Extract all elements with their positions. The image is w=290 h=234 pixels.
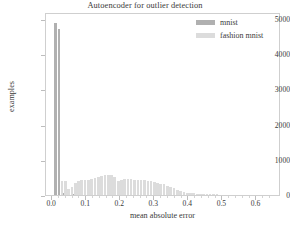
x-minor-tick-mark <box>262 196 263 198</box>
x-minor-tick-mark <box>160 196 161 198</box>
x-tick-mark <box>119 196 120 200</box>
histogram-bar <box>153 182 156 195</box>
x-tick-label: 0.4 <box>172 199 202 208</box>
histogram-bar <box>199 194 202 195</box>
x-minor-tick-mark <box>174 196 175 198</box>
x-minor-tick-mark <box>215 196 216 198</box>
x-minor-tick-mark <box>112 196 113 198</box>
chart-legend: mnistfashion mnist <box>196 17 278 43</box>
legend-item: fashion mnist <box>196 30 278 41</box>
histogram-bar <box>80 180 83 195</box>
histogram-bar <box>100 176 103 195</box>
histogram-bar <box>130 179 133 195</box>
y-tick-mark <box>41 90 45 91</box>
histogram-bar <box>94 178 97 195</box>
histogram-bar <box>202 194 205 195</box>
x-minor-tick-mark <box>167 196 168 198</box>
y-tick-mark <box>41 126 45 127</box>
y-tick-mark <box>41 55 45 56</box>
legend-item: mnist <box>196 17 278 28</box>
histogram-bar <box>179 191 182 195</box>
chart-title: Autoencoder for outlier detection <box>0 1 290 10</box>
y-tick-label: 3000 <box>250 86 290 94</box>
histogram-bar <box>133 180 136 195</box>
histogram-bar <box>113 177 116 195</box>
x-minor-tick-mark <box>146 196 147 198</box>
x-minor-tick-mark <box>72 196 73 198</box>
histogram-bar <box>189 193 192 195</box>
chart-figure: Autoencoder for outlier detection 010002… <box>0 0 290 234</box>
histogram-bar <box>163 184 166 195</box>
x-minor-tick-mark <box>201 196 202 198</box>
x-minor-tick-mark <box>92 196 93 198</box>
legend-label: mnist <box>220 18 238 28</box>
x-tick-mark <box>85 196 86 200</box>
y-tick-mark <box>41 196 45 197</box>
histogram-bar <box>192 193 195 195</box>
x-minor-tick-mark <box>133 196 134 198</box>
histogram-bar <box>74 183 77 195</box>
y-tick-label: 4000 <box>250 51 290 59</box>
y-tick-mark <box>41 20 45 21</box>
legend-swatch-icon <box>196 33 215 38</box>
histogram-bar <box>209 194 212 195</box>
histogram-bar <box>140 180 143 195</box>
x-tick-mark <box>255 196 256 200</box>
histogram-bar <box>104 175 107 195</box>
histogram-bar <box>61 181 64 195</box>
histogram-bar <box>169 187 172 195</box>
x-minor-tick-mark <box>65 196 66 198</box>
histogram-bar <box>120 180 123 195</box>
histogram-bar <box>58 29 61 195</box>
x-tick-label: 0.3 <box>138 199 168 208</box>
x-tick-label: 0.1 <box>70 199 100 208</box>
x-minor-tick-mark <box>242 196 243 198</box>
x-minor-tick-mark <box>249 196 250 198</box>
histogram-bar <box>64 181 67 195</box>
x-minor-tick-mark <box>194 196 195 198</box>
histogram-bar <box>173 188 176 195</box>
x-tick-mark <box>221 196 222 200</box>
x-tick-label: 0.0 <box>36 199 66 208</box>
x-tick-mark <box>153 196 154 200</box>
x-minor-tick-mark <box>269 196 270 198</box>
x-tick-label: 0.6 <box>240 199 270 208</box>
histogram-bar <box>216 194 219 195</box>
x-minor-tick-mark <box>58 196 59 198</box>
x-tick-mark <box>187 196 188 200</box>
histogram-bar <box>71 187 74 195</box>
y-axis-label: examples <box>7 57 16 137</box>
histogram-bar <box>84 180 87 195</box>
x-minor-tick-mark <box>235 196 236 198</box>
histogram-bar <box>159 184 162 195</box>
x-minor-tick-mark <box>78 196 79 198</box>
histogram-bar <box>143 180 146 195</box>
x-tick-label: 0.5 <box>206 199 236 208</box>
histogram-bar <box>212 194 215 195</box>
histogram-bar <box>110 175 113 195</box>
x-tick-label: 0.2 <box>104 199 134 208</box>
x-minor-tick-mark <box>208 196 209 198</box>
x-minor-tick-mark <box>140 196 141 198</box>
histogram-bar <box>90 179 93 195</box>
x-axis-label: mean absolute error <box>45 211 280 220</box>
x-minor-tick-mark <box>126 196 127 198</box>
x-minor-tick-mark <box>106 196 107 198</box>
histogram-bar <box>54 23 57 195</box>
x-tick-mark <box>51 196 52 200</box>
histogram-bar <box>123 179 126 195</box>
x-minor-tick-mark <box>181 196 182 198</box>
y-tick-label: 1000 <box>250 157 290 165</box>
y-tick-mark <box>41 161 45 162</box>
legend-label: fashion mnist <box>220 31 263 41</box>
x-minor-tick-mark <box>228 196 229 198</box>
x-minor-tick-mark <box>99 196 100 198</box>
histogram-bar <box>150 181 153 195</box>
y-tick-label: 2000 <box>250 122 290 130</box>
legend-swatch-icon <box>196 20 215 25</box>
histogram-bar <box>183 192 186 195</box>
